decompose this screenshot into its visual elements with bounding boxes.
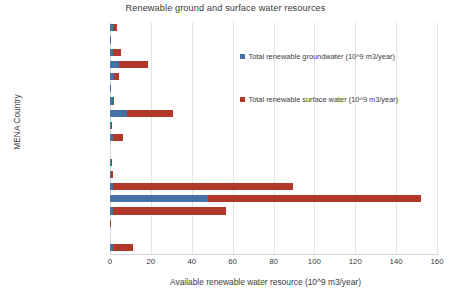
stacked-bar[interactable]	[110, 171, 437, 178]
x-tick-label: 100	[294, 257, 334, 266]
bar-row: Morocco	[110, 107, 437, 119]
bar-row: Algeria	[110, 242, 437, 254]
legend-item-surfacewater[interactable]: Total renewable surface water (10^9 m3/y…	[240, 95, 398, 104]
legend-swatch-surfacewater-icon	[240, 97, 245, 102]
x-tick-label: 20	[131, 257, 171, 266]
x-tick-label: 80	[254, 257, 294, 266]
bar-row: Israel	[110, 169, 437, 181]
bar-row: Iran Islamic Rep.	[110, 193, 437, 205]
water-resources-bar-chart: Renewable ground and surface water resou…	[0, 0, 451, 302]
bar-segment-surfacewater[interactable]	[119, 61, 148, 68]
stacked-bar[interactable]	[110, 232, 437, 239]
legend-label-groundwater: Total renewable groundwater (10^9 m3/yea…	[249, 52, 395, 61]
bar-segment-surfacewater[interactable]	[110, 220, 111, 227]
bar-row: Kuwait	[110, 144, 437, 156]
bar-segment-surfacewater[interactable]	[113, 97, 114, 104]
stacked-bar[interactable]	[110, 244, 437, 251]
bar-row: Lebanon	[110, 132, 437, 144]
bar-row: Saudi Arabia	[110, 71, 437, 83]
bar-row: Jordan	[110, 156, 437, 168]
bar-row: Bahrain	[110, 230, 437, 242]
x-axis-title: Available renewable water resource (10^9…	[88, 277, 443, 287]
bar-segment-groundwater[interactable]	[110, 195, 208, 202]
x-tick-label: 160	[417, 257, 451, 266]
bar-row: Qatar	[110, 83, 437, 95]
stacked-bar[interactable]	[110, 183, 437, 190]
x-tick-label: 120	[335, 257, 375, 266]
stacked-bar[interactable]	[110, 207, 437, 214]
bar-segment-surfacewater[interactable]	[113, 134, 123, 141]
bar-segment-groundwater[interactable]	[110, 36, 111, 43]
gridline	[437, 22, 438, 254]
bar-segment-surfacewater[interactable]	[111, 171, 113, 178]
stacked-bar[interactable]	[110, 220, 437, 227]
bar-row: Yemen	[110, 22, 437, 34]
stacked-bar[interactable]	[110, 134, 437, 141]
bar-segment-surfacewater[interactable]	[113, 24, 117, 31]
x-tick-label: 40	[172, 257, 212, 266]
stacked-bar[interactable]	[110, 61, 437, 68]
stacked-bar[interactable]	[110, 110, 437, 117]
bar-segment-surfacewater[interactable]	[113, 49, 122, 56]
stacked-bar[interactable]	[110, 85, 437, 92]
bar-segment-groundwater[interactable]	[110, 85, 111, 92]
bar-segment-surfacewater[interactable]	[111, 159, 112, 166]
x-axis-line	[110, 254, 438, 255]
bar-row: Djibouti	[110, 217, 437, 229]
bar-row: Egypt	[110, 205, 437, 217]
bar-segment-groundwater[interactable]	[110, 110, 127, 117]
bar-segment-groundwater[interactable]	[110, 61, 119, 68]
x-tick-label: 60	[213, 257, 253, 266]
bar-row: Iraq	[110, 181, 437, 193]
stacked-bar[interactable]	[110, 24, 437, 31]
y-axis-title: MENA Country	[12, 77, 22, 167]
bar-row: United Arab Emirates	[110, 34, 437, 46]
x-tick-label: 140	[376, 257, 416, 266]
bar-row: Libya	[110, 120, 437, 132]
chart-title: Renewable ground and surface water resou…	[0, 3, 451, 13]
stacked-bar[interactable]	[110, 122, 437, 129]
stacked-bar[interactable]	[110, 146, 437, 153]
bar-segment-surfacewater[interactable]	[113, 183, 293, 190]
bar-segment-surfacewater[interactable]	[127, 110, 173, 117]
stacked-bar[interactable]	[110, 36, 437, 43]
stacked-bar[interactable]	[110, 159, 437, 166]
legend-swatch-groundwater-icon	[240, 54, 245, 59]
bar-segment-surfacewater[interactable]	[111, 122, 112, 129]
bar-segment-surfacewater[interactable]	[113, 244, 133, 251]
x-tick-label: 0	[90, 257, 130, 266]
stacked-bar[interactable]	[110, 195, 437, 202]
legend-item-groundwater[interactable]: Total renewable groundwater (10^9 m3/yea…	[240, 52, 395, 61]
legend-label-surfacewater: Total renewable surface water (10^9 m3/y…	[249, 95, 399, 104]
stacked-bar[interactable]	[110, 73, 437, 80]
bar-segment-surfacewater[interactable]	[113, 207, 227, 214]
bar-segment-surfacewater[interactable]	[208, 195, 421, 202]
bar-segment-surfacewater[interactable]	[114, 73, 118, 80]
